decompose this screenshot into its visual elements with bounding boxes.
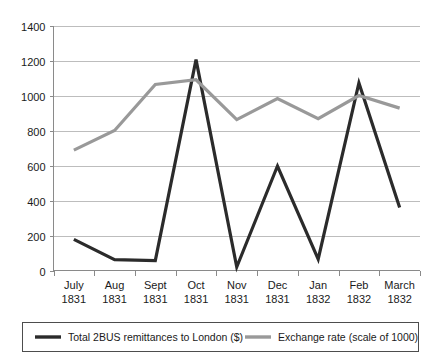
gridlines-group [50, 27, 421, 272]
chart-canvas: 0200400600800100012001400 July1831Aug183… [0, 0, 440, 360]
x-axis-tick-label: March1832 [384, 279, 415, 305]
line-chart-figure: 0200400600800100012001400 July1831Aug183… [0, 0, 440, 360]
x-axis-tick-marks [55, 271, 421, 276]
y-axis-tick-labels: 0200400600800100012001400 [21, 21, 45, 278]
x-axis-tick-labels: July1831Aug1831Sept1831Oct1831Nov1831Dec… [62, 279, 415, 305]
legend-label: Total 2BUS remittances to London ($) [68, 331, 243, 343]
x-axis-tick-label: Dec1831 [265, 279, 289, 305]
legend-label: Exchange rate (scale of 1000) [278, 331, 418, 343]
chart-legend: Total 2BUS remittances to London ($)Exch… [23, 323, 419, 352]
x-axis-tick-label: July1831 [62, 279, 86, 305]
x-axis-tick-label: Jan1832 [306, 279, 330, 305]
y-axis-tick-label: 400 [27, 196, 45, 208]
y-axis-tick-label: 1200 [21, 56, 45, 68]
series-line-remittances [74, 60, 400, 267]
x-axis-tick-label: Feb1832 [347, 279, 371, 305]
y-axis-tick-label: 600 [27, 161, 45, 173]
y-axis-tick-label: 1400 [21, 21, 45, 33]
y-axis-tick-label: 800 [27, 126, 45, 138]
y-axis-tick-label: 200 [27, 231, 45, 243]
x-axis-tick-label: Nov1831 [225, 279, 249, 305]
x-axis-tick-label: Oct1831 [184, 279, 208, 305]
y-axis-tick-label: 0 [39, 266, 45, 278]
chart-page: 0200400600800100012001400 July1831Aug183… [0, 0, 440, 360]
data-series-group [74, 60, 400, 267]
x-axis-tick-label: Sept1831 [143, 279, 167, 305]
x-axis-tick-label: Aug1831 [102, 279, 126, 305]
y-axis-tick-label: 1000 [21, 91, 45, 103]
